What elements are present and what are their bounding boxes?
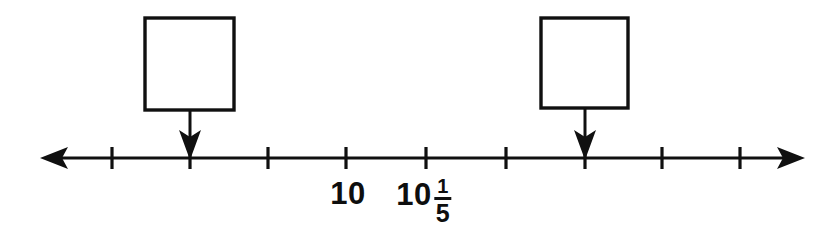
fraction-numerator: 1 (435, 176, 450, 197)
number-line-worksheet: 10 10 1 5 (0, 0, 840, 239)
tick-label-10-and-one-fifth: 10 1 5 (396, 178, 451, 228)
fraction-one-fifth: 1 5 (434, 176, 452, 226)
answer-box-right[interactable] (541, 18, 628, 108)
answer-box-left[interactable] (145, 18, 234, 110)
fraction-denominator: 5 (434, 200, 452, 226)
mixed-number-whole-part: 10 (396, 178, 431, 210)
tick-label-10: 10 (330, 178, 365, 209)
